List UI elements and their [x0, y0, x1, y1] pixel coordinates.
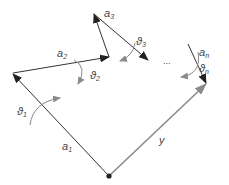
link-a1	[13, 74, 109, 176]
label-theta3: ϑ3	[136, 35, 146, 48]
label-thetan: ϑn	[199, 62, 209, 75]
kinematic-chain-diagram: a1 a2 a3 an ϑ1 ϑ2 ϑ3 ϑn y ...	[0, 0, 229, 185]
rotation-arc-theta2	[74, 60, 82, 84]
label-an: an	[199, 46, 209, 59]
rotation-arc-theta3	[120, 43, 135, 61]
target-vector-y	[109, 84, 206, 176]
rotation-arc-theta1	[30, 98, 60, 125]
label-a2: a2	[57, 47, 67, 60]
origin-joint	[106, 173, 111, 178]
ellipsis: ...	[163, 56, 171, 66]
rotation-arc-thetan	[181, 52, 199, 77]
label-y: y	[158, 134, 166, 146]
label-a3: a3	[104, 7, 114, 20]
label-a1: a1	[62, 140, 72, 153]
label-theta1: ϑ1	[17, 105, 27, 118]
label-theta2: ϑ2	[90, 69, 100, 82]
